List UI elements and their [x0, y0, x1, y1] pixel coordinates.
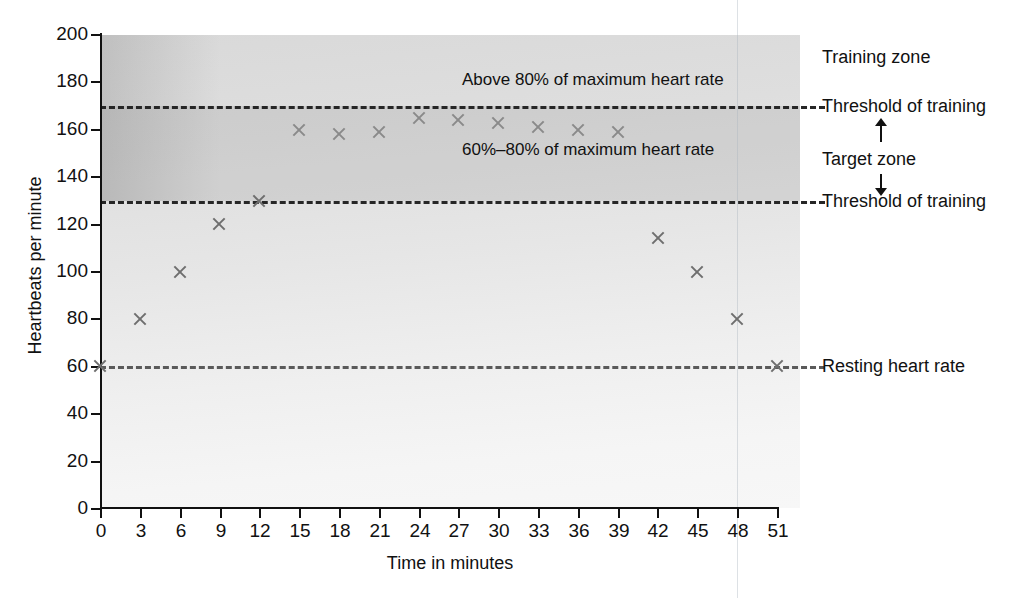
refline-threshold-lower	[100, 201, 825, 204]
x-tick-label: 21	[360, 521, 400, 540]
y-tick-label: 20	[36, 451, 88, 470]
y-axis-line	[100, 33, 102, 510]
x-tick-label: 48	[718, 521, 758, 540]
refline-resting-heart-rate	[100, 366, 825, 369]
x-tick-label: 12	[240, 521, 280, 540]
x-tick-label: 18	[320, 521, 360, 540]
arrow-up-icon	[874, 118, 888, 144]
target-zone-band-left-shade	[100, 35, 220, 201]
x-tick-label: 36	[559, 521, 599, 540]
annotation-above-80: Above 80% of maximum heart rate	[462, 70, 724, 90]
x-tick-label: 6	[161, 521, 201, 540]
chart-canvas: 200 180 160 140 120 100 80 60 40 20 0 0 …	[0, 0, 1018, 598]
cropped-caption-above	[0, 0, 1018, 11]
y-tick-label: 200	[36, 24, 88, 43]
x-tick-label: 27	[439, 521, 479, 540]
y-tick-label: 40	[36, 403, 88, 422]
legend-resting-heart-rate: Resting heart rate	[822, 356, 1018, 377]
x-tick-label: 9	[201, 521, 241, 540]
legend-threshold-lower: Threshold of training	[822, 191, 1018, 212]
x-tick-label: 33	[519, 521, 559, 540]
x-tick-label: 45	[678, 521, 718, 540]
y-tick-label: 0	[36, 498, 88, 517]
x-tick-label: 0	[81, 521, 121, 540]
x-tick-label: 15	[280, 521, 320, 540]
x-tick-label: 3	[121, 521, 161, 540]
refline-threshold-upper	[100, 106, 825, 109]
legend-threshold-upper: Threshold of training	[822, 96, 1018, 117]
y-tick-label: 180	[36, 71, 88, 90]
annotation-60-80: 60%–80% of maximum heart rate	[462, 140, 714, 160]
y-axis-title: Heartbeats per minute	[25, 151, 46, 381]
x-axis-title: Time in minutes	[100, 553, 800, 574]
x-axis-line	[100, 507, 779, 509]
x-tick-label: 42	[638, 521, 678, 540]
x-tick-label: 30	[479, 521, 519, 540]
x-tick-label: 24	[400, 521, 440, 540]
legend-target-zone: Target zone	[822, 149, 1018, 170]
y-tick-label: 160	[36, 119, 88, 138]
legend-training-zone: Training zone	[822, 47, 1018, 68]
x-tick-label: 39	[599, 521, 639, 540]
x-tick-label: 51	[758, 521, 798, 540]
